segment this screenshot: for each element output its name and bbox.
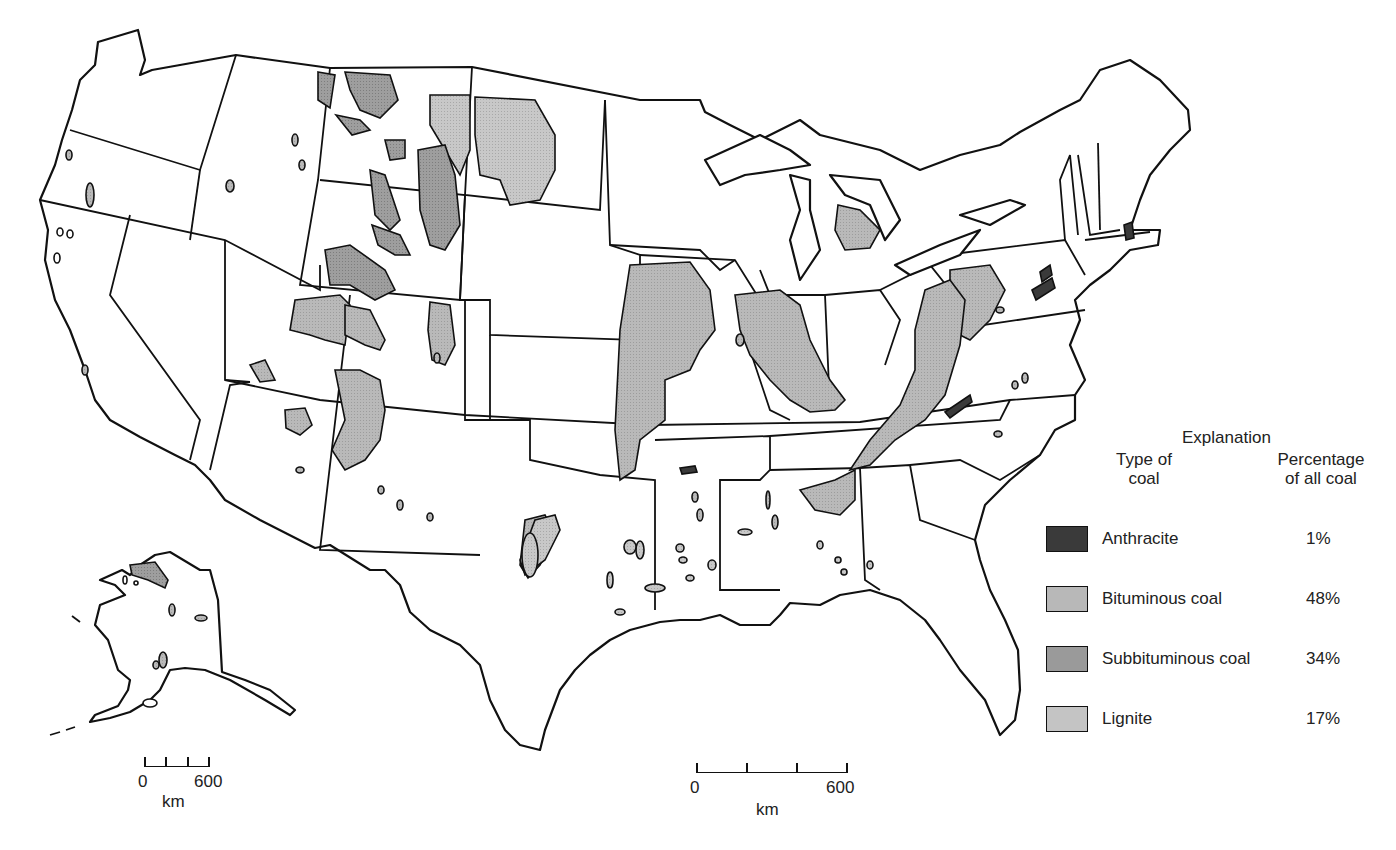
lignite-percent: 17% [1306, 709, 1340, 729]
scale-bar-main: 0 600 km [696, 762, 866, 832]
legend-item-lignite: Lignite 17% [1046, 706, 1386, 736]
legend-item-bituminous: Bituminous coal 48% [1046, 586, 1386, 616]
anthracite-percent: 1% [1306, 529, 1331, 549]
alaska [50, 552, 295, 735]
bituminous-percent: 48% [1306, 589, 1340, 609]
subbituminous-percent: 34% [1306, 649, 1340, 669]
subbituminous-swatch [1046, 646, 1088, 672]
legend-item-subbituminous: Subbituminous coal 34% [1046, 646, 1386, 676]
legend-percent-header: Percentage of all coal [1266, 450, 1376, 488]
legend-title: Explanation [1182, 428, 1271, 448]
lignite-swatch [1046, 706, 1088, 732]
bituminous-swatch [1046, 586, 1088, 612]
legend-item-anthracite: Anthracite 1% [1046, 526, 1386, 556]
anthracite-swatch [1046, 526, 1088, 552]
legend-type-header: Type of coal [1108, 450, 1180, 488]
scale-bar-alaska: 0 600 km [144, 756, 214, 826]
